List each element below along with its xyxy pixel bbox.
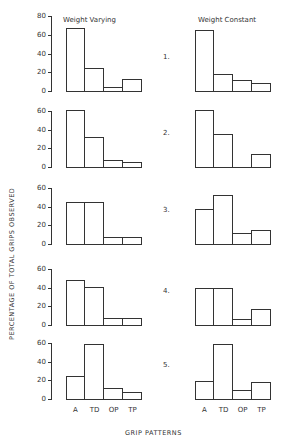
bar-a	[66, 28, 85, 92]
bar-a	[66, 376, 85, 400]
bar-op	[103, 388, 123, 400]
y-tick-mark	[48, 72, 51, 73]
y-axis-line	[51, 343, 52, 400]
panel-number: 5.	[163, 361, 170, 369]
x-axis-label: GRIP PATTERNS	[125, 429, 182, 437]
y-tick-label: 0	[32, 395, 46, 403]
bar-td	[84, 344, 104, 400]
y-tick-mark	[48, 130, 51, 131]
bar-op	[103, 318, 123, 326]
y-tick-label: 40	[32, 203, 46, 211]
bar-op	[103, 87, 123, 92]
bar-td	[84, 68, 104, 92]
y-axis-label: PERCENTAGE OF TOTAL GRIPS OBSERVED	[8, 188, 16, 340]
x-category-label: OP	[104, 406, 123, 414]
y-tick-label: 60	[32, 107, 46, 115]
x-category-label: A	[66, 406, 85, 414]
bar-op	[232, 233, 252, 245]
column-title-weight-varying: Weight Varying	[63, 16, 116, 24]
y-axis-line	[51, 111, 52, 168]
bar-td	[213, 74, 233, 92]
y-tick-label: 0	[32, 163, 46, 171]
bar-a	[66, 110, 85, 168]
y-tick-label: 80	[32, 12, 46, 20]
y-tick-mark	[48, 269, 51, 270]
y-tick-mark	[48, 148, 51, 149]
y-tick-mark	[48, 54, 51, 55]
y-tick-label: 20	[32, 68, 46, 76]
y-tick-mark	[48, 188, 51, 189]
y-tick-mark	[48, 244, 51, 245]
y-tick-mark	[48, 343, 51, 344]
y-tick-mark	[48, 35, 51, 36]
bar-op	[232, 319, 252, 326]
y-tick-label: 60	[32, 265, 46, 273]
y-tick-label: 20	[32, 144, 46, 152]
y-tick-mark	[48, 362, 51, 363]
bar-a	[195, 381, 214, 400]
y-tick-mark	[48, 207, 51, 208]
bar-td	[213, 134, 233, 168]
bar-a	[195, 110, 214, 168]
bar-tp	[122, 79, 142, 92]
bar-tp	[251, 309, 271, 326]
bar-op	[232, 390, 252, 400]
x-category-label: TD	[85, 406, 104, 414]
bar-tp	[251, 154, 271, 168]
y-tick-mark	[48, 167, 51, 168]
y-tick-label: 40	[32, 284, 46, 292]
y-tick-label: 0	[32, 321, 46, 329]
bar-a	[66, 280, 85, 326]
y-tick-mark	[48, 225, 51, 226]
y-tick-label: 0	[32, 87, 46, 95]
bar-tp	[122, 392, 142, 400]
bar-a	[195, 209, 214, 245]
x-category-label: TP	[123, 406, 142, 414]
y-tick-label: 0	[32, 240, 46, 248]
y-tick-mark	[48, 111, 51, 112]
y-tick-label: 40	[32, 358, 46, 366]
y-tick-label: 20	[32, 302, 46, 310]
bar-td	[84, 287, 104, 326]
bar-tp	[122, 162, 142, 168]
bar-a	[195, 288, 214, 326]
panel-number: 1.	[163, 53, 170, 61]
bar-op	[232, 80, 252, 92]
bar-td	[213, 288, 233, 326]
bar-op	[103, 160, 123, 168]
x-category-label: TP	[252, 406, 271, 414]
y-tick-label: 60	[32, 184, 46, 192]
y-axis-line	[51, 188, 52, 245]
y-tick-mark	[48, 325, 51, 326]
y-tick-mark	[48, 380, 51, 381]
bar-tp	[122, 318, 142, 326]
bar-tp	[122, 237, 142, 245]
y-tick-label: 40	[32, 50, 46, 58]
bar-td	[84, 137, 104, 168]
bar-td	[213, 195, 233, 245]
panel-number: 2.	[163, 129, 170, 137]
panel-number: 3.	[163, 206, 170, 214]
bar-op	[103, 237, 123, 245]
bar-tp	[251, 230, 271, 245]
bar-a	[66, 202, 85, 245]
bar-td	[84, 202, 104, 245]
bar-td	[213, 344, 233, 400]
bar-tp	[251, 83, 271, 92]
y-tick-mark	[48, 399, 51, 400]
y-axis-line	[51, 16, 52, 92]
y-tick-label: 40	[32, 126, 46, 134]
bar-a	[195, 30, 214, 92]
y-tick-mark	[48, 16, 51, 17]
x-category-label: TD	[214, 406, 233, 414]
x-category-label: A	[195, 406, 214, 414]
y-tick-mark	[48, 306, 51, 307]
x-category-label: OP	[233, 406, 252, 414]
column-title-weight-constant: Weight Constant	[198, 16, 256, 24]
y-tick-mark	[48, 288, 51, 289]
y-axis-line	[51, 269, 52, 326]
y-tick-label: 20	[32, 376, 46, 384]
bar-tp	[251, 382, 271, 400]
y-tick-mark	[48, 91, 51, 92]
y-tick-label: 60	[32, 339, 46, 347]
